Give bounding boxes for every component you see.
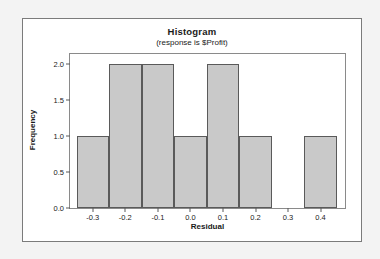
chart-subtitle: (response is $Profit) <box>23 39 361 47</box>
histogram-bar <box>142 64 175 208</box>
x-axis-label: Residual <box>69 222 346 231</box>
histogram-bars <box>70 54 345 208</box>
chart-title: Histogram <box>23 27 361 37</box>
histogram-bar <box>109 64 142 208</box>
x-axis-tick-label: 0.4 <box>301 213 341 222</box>
y-axis-tick-mark <box>66 208 70 209</box>
y-axis-tick-label: 2.0 <box>30 60 70 69</box>
y-axis-tick-mark <box>66 100 70 101</box>
x-axis-tick-mark <box>92 208 93 212</box>
y-axis-tick-label: 1.0 <box>30 132 70 141</box>
x-axis-tick-mark <box>288 208 289 212</box>
x-axis-tick-mark <box>255 208 256 212</box>
x-axis-tick-mark <box>222 208 223 212</box>
y-axis-tick-label: 0.0 <box>30 204 70 213</box>
histogram-bar <box>174 136 207 208</box>
y-axis-tick-label: 1.5 <box>30 96 70 105</box>
y-axis-tick-label: 0.5 <box>30 168 70 177</box>
y-axis-tick-mark <box>66 64 70 65</box>
x-axis-tick-mark <box>157 208 158 212</box>
plot-panel: 0.00.51.01.52.0-0.3-0.2-0.10.00.10.20.30… <box>69 53 346 209</box>
y-axis-label: Frequency <box>28 110 37 150</box>
histogram-bar <box>77 136 110 208</box>
histogram-bar <box>207 64 240 208</box>
x-axis-tick-mark <box>190 208 191 212</box>
chart-card: Histogram (response is $Profit) Frequenc… <box>22 18 362 242</box>
screenshot-root: Histogram (response is $Profit) Frequenc… <box>0 0 380 259</box>
y-axis-tick-mark <box>66 172 70 173</box>
histogram-bar <box>304 136 337 208</box>
y-axis-tick-mark <box>66 136 70 137</box>
x-axis-tick-mark <box>320 208 321 212</box>
x-axis-tick-mark <box>125 208 126 212</box>
histogram-bar <box>239 136 272 208</box>
chart-title-block: Histogram (response is $Profit) <box>23 27 361 47</box>
